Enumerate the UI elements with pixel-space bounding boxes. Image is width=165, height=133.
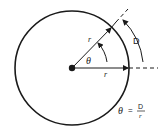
diagonal-dashed-extension — [116, 9, 128, 22]
radius-diagonal — [72, 28, 111, 68]
radius-diagonal-label: r — [88, 35, 92, 44]
formula-equals: = — [128, 106, 133, 115]
angle-label: θ — [86, 55, 91, 66]
formula-denominator: r — [139, 112, 142, 120]
radius-horizontal-label: r — [104, 70, 108, 79]
radian-diagram: r r θ D θ = D r — [0, 0, 165, 133]
arc-length-label: D — [133, 36, 140, 46]
diagonal-line — [111, 22, 116, 28]
formula-theta: θ — [118, 105, 123, 116]
formula: θ = D r — [118, 103, 145, 120]
formula-numerator: D — [138, 103, 143, 110]
angle-arc — [98, 43, 107, 62]
